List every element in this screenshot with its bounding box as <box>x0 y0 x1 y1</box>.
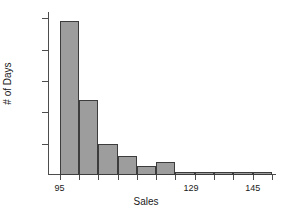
x-tick-mark <box>195 175 196 180</box>
x-tick-mark <box>118 175 119 180</box>
x-tick-mark <box>156 175 157 180</box>
x-tick-label: 145 <box>245 183 260 193</box>
x-tick-label: 95 <box>55 183 65 193</box>
y-axis-title: # of Days <box>2 49 13 119</box>
histogram-bar <box>233 172 252 175</box>
histogram-chart: 1020304050 95129145 # of Days Sales <box>0 0 292 223</box>
x-axis-title: Sales <box>0 196 292 207</box>
histogram-bar <box>253 172 272 175</box>
histogram-bar <box>98 144 117 175</box>
x-tick-mark <box>214 175 215 180</box>
x-tick-mark <box>272 175 273 180</box>
x-tick-mark <box>98 175 99 180</box>
x-tick-mark <box>60 175 61 180</box>
x-tick-mark <box>79 175 80 180</box>
x-tick-mark <box>175 175 176 180</box>
histogram-bar <box>214 172 233 175</box>
plot-area <box>48 12 272 175</box>
histogram-bar <box>156 162 175 175</box>
histogram-bar <box>60 21 79 175</box>
histogram-bar <box>195 172 214 175</box>
x-tick-mark <box>137 175 138 180</box>
x-tick-mark <box>253 175 254 180</box>
histogram-bar <box>79 100 98 175</box>
histogram-bar <box>137 166 156 175</box>
histogram-bar <box>175 172 194 175</box>
x-tick-label: 129 <box>183 183 198 193</box>
x-tick-mark <box>233 175 234 180</box>
histogram-bar <box>118 156 137 175</box>
